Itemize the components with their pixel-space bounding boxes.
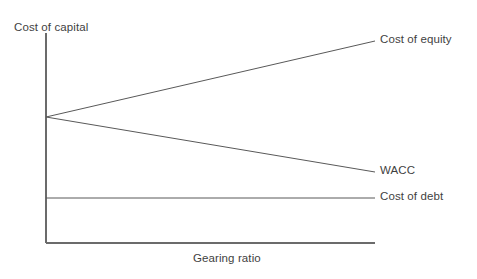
series-label-cost-of-equity: Cost of equity	[380, 33, 452, 46]
y-axis-title: Cost of capital	[14, 21, 88, 34]
series-line-cost-of-equity	[46, 41, 375, 117]
series-label-cost-of-debt: Cost of debt	[380, 190, 443, 203]
x-axis-title: Gearing ratio	[193, 252, 261, 265]
capital-structure-chart: Cost of capital Gearing ratio Cost of eq…	[0, 0, 477, 279]
series-line-wacc	[46, 117, 375, 172]
series-label-wacc: WACC	[380, 164, 415, 177]
